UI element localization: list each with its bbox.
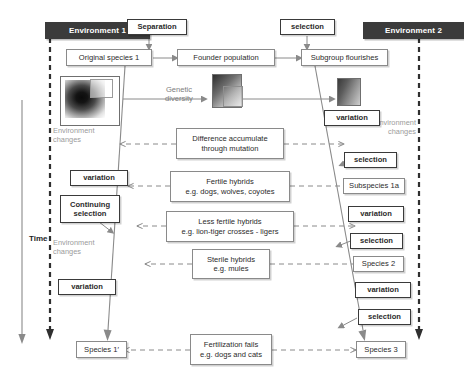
variation-right-3-box: variation xyxy=(355,282,411,298)
variation-right-1-box: variation xyxy=(324,110,380,126)
variation-left-1-box: variation xyxy=(70,170,128,186)
subpopulation-square xyxy=(223,86,242,108)
right-lineage-line xyxy=(315,66,366,341)
genetic-diversity-label: Genetic diversity xyxy=(148,85,210,103)
variation-left-2-box: variation xyxy=(58,279,116,295)
species-1-prime-box: Species 1′ xyxy=(76,341,127,358)
time-axis-arrow xyxy=(18,100,25,344)
environment-2-band: Environment 2 xyxy=(363,22,464,39)
founder-population-box: Founder population xyxy=(177,49,275,66)
fertile-hybrids-box: Fertile hybrids e.g. dogs, wolves, coyot… xyxy=(170,171,290,202)
subpopulation-square xyxy=(90,79,113,98)
tile-founder-population xyxy=(212,74,240,106)
tile-original-population xyxy=(60,76,118,124)
env-changes-left-top: Environment changes xyxy=(53,126,123,144)
subgroup-flourishes-box: Subgroup flourishes xyxy=(301,49,388,66)
environment-1-boundary xyxy=(46,38,54,340)
fertilization-fails-box: Fertilization fails e.g. dogs and cats xyxy=(190,334,272,365)
species-2-box: Species 2 xyxy=(353,256,404,272)
species-3-box: Species 3 xyxy=(356,341,406,358)
variation-right-2-box: variation xyxy=(348,206,404,222)
env-changes-left-mid: Environment changes xyxy=(53,238,123,256)
separation-box: Separation xyxy=(127,19,187,35)
sterile-hybrids-box: Sterile hybrids e.g. mules xyxy=(192,249,270,279)
difference-accumulate-box: Difference accumulate through mutation xyxy=(176,128,284,159)
less-fertile-hybrids-box: Less fertile hybrids e.g. lion-tiger cro… xyxy=(166,211,294,242)
selection-top-box: selection xyxy=(280,19,335,35)
tile-subgroup-population xyxy=(337,78,359,104)
selection-right-1-box: selection xyxy=(344,152,397,168)
continuing-selection-box: Continuing selection xyxy=(60,195,120,223)
time-axis-label: Time xyxy=(29,234,48,243)
subspecies-1a-box: Subspecies 1a xyxy=(343,178,405,194)
tile-gradient xyxy=(337,78,361,106)
selection-right-3-box: selection xyxy=(358,309,411,325)
environment-2-label: Environment 2 xyxy=(385,26,442,35)
environment-2-boundary xyxy=(415,38,423,340)
selection-right-2-box: selection xyxy=(350,233,403,249)
original-species-1-box: Original species 1 xyxy=(66,49,152,66)
environment-1-label: Environment 1 xyxy=(69,26,126,35)
